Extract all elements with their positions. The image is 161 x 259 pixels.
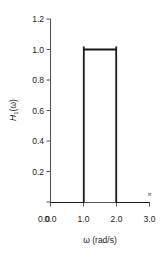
y-tick-label-0.8: 0.8 [32,75,44,85]
y-axis-title: H1(ω) [8,99,19,121]
y-tick-label-0.6: 0.6 [32,106,44,116]
figure-container: 1.2 1.0 0.8 0.6 0.4 0.2 0.0 H1(ω) 0.0 1.… [0,0,161,259]
x-axis-title: ω (rad/s) [83,235,117,245]
x-tick-label-3.0: 3.0 [144,214,156,224]
x-tick-label-1.0: 1.0 [78,214,90,224]
x-tick-label-0.0: 0.0 [45,214,57,224]
y-tick-label-0.4: 0.4 [32,136,44,146]
y-axis-title-tail: (ω) [8,99,18,111]
y-tick-label-1.0: 1.0 [32,45,44,55]
y-axis-title-group: H1(ω) [8,99,19,121]
x-tick-label-2.0: 2.0 [111,214,123,224]
chart-plot: 1.2 1.0 0.8 0.6 0.4 0.2 0.0 H1(ω) 0.0 1.… [0,0,161,259]
y-tick-label-1.2: 1.2 [32,14,44,24]
y-tick-label-0.2: 0.2 [32,167,44,177]
